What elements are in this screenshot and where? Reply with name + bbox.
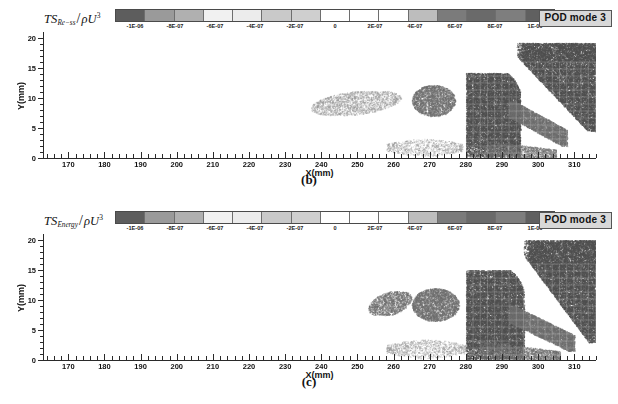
x-tick-minor [184,356,185,360]
x-tick-major [68,354,69,360]
x-tick-major [177,354,178,360]
x-tick-minor [126,356,127,360]
x-tick-minor [329,356,330,360]
colorbar-segment [175,212,204,223]
x-tick-label: 270 [423,362,436,371]
x-tick-minor [83,356,84,360]
x-tick-minor [76,356,77,360]
x-tick-minor [524,154,525,158]
quantity-exponent-c: 3 [99,213,103,222]
colorbar-row-c: TSEnergy/ρU3 -1E-06-8E-07-6E-07-4E-07-2E… [0,208,618,234]
x-tick-major [141,152,142,158]
x-tick-minor [480,154,481,158]
x-tick-major [466,354,467,360]
x-tick-minor [112,356,113,360]
colorbar-tick-label: -2E-07 [287,225,304,231]
colorbar-tick-label: 0 [333,23,336,29]
x-tick-minor [437,154,438,158]
x-tick-minor [90,154,91,158]
y-tick-minor [40,50,44,51]
colorbar-b [115,9,555,22]
x-tick-label: 200 [170,160,183,169]
x-tick-minor [47,356,48,360]
colorbar-tick-label: 2E-07 [368,23,383,29]
x-tick-minor [423,154,424,158]
x-tick-minor [97,356,98,360]
y-tick-minor [40,354,44,355]
colorbar-segment [321,212,350,223]
colorbar-segment [116,212,145,223]
x-tick-minor [170,154,171,158]
x-tick-minor [292,356,293,360]
pod-mode-badge-c: POD mode 3 [539,212,612,229]
x-tick-minor [329,154,330,158]
x-tick-minor [516,356,517,360]
quantity-denominator-b: ρU [81,12,96,26]
y-tick-major [38,360,44,361]
x-tick-minor [415,154,416,158]
y-axis-title-b: Y(mm) [16,81,26,109]
y-tick-minor [40,252,44,253]
y-tick-label: 10 [28,296,36,305]
x-tick-minor [343,356,344,360]
colorbar-segment [292,212,321,223]
x-tick-major [574,152,575,158]
x-tick-minor [148,356,149,360]
x-tick-minor [256,154,257,158]
x-axis-line-c [43,360,596,361]
x-tick-major [502,152,503,158]
colorbar-segment [116,10,145,21]
colorbar-segment [204,212,233,223]
x-tick-label: 260 [387,362,400,371]
colorbar-segment [292,10,321,21]
x-tick-label: 210 [207,362,220,371]
x-tick-major [502,354,503,360]
y-tick-minor [40,44,44,45]
x-tick-minor [191,356,192,360]
x-tick-major [177,152,178,158]
y-tick-minor [40,122,44,123]
x-tick-minor [545,154,546,158]
y-tick-minor [40,104,44,105]
y-tick-minor [40,110,44,111]
x-tick-major [285,152,286,158]
x-tick-major [466,152,467,158]
x-tick-label: 230 [279,362,292,371]
x-tick-minor [263,356,264,360]
scatter-canvas-c [43,234,596,361]
y-tick-minor [40,86,44,87]
x-tick-major [430,152,431,158]
x-tick-minor [596,356,597,360]
pod-mode-badge-b: POD mode 3 [539,10,612,27]
colorbar-segment [233,212,262,223]
x-tick-minor [83,154,84,158]
colorbar-gradient-b [115,9,555,22]
x-tick-minor [372,154,373,158]
x-tick-major [249,152,250,158]
y-tick-major [38,98,44,99]
x-tick-minor [545,356,546,360]
colorbar-segment [175,10,204,21]
x-tick-minor [531,356,532,360]
x-tick-label: 300 [532,160,545,169]
x-tick-minor [206,154,207,158]
y-tick-label: 5 [32,124,36,133]
colorbar-segment [262,10,291,21]
x-tick-minor [76,154,77,158]
y-tick-minor [40,140,44,141]
quantity-prefix-c: TS [44,214,57,228]
x-tick-label: 180 [98,362,111,371]
y-tick-minor [40,264,44,265]
y-tick-minor [40,282,44,283]
x-tick-major [213,354,214,360]
x-tick-label: 310 [568,362,581,371]
y-axis-title-c: Y(mm) [16,283,26,311]
x-tick-minor [61,154,62,158]
x-tick-minor [278,154,279,158]
x-tick-minor [263,154,264,158]
x-tick-label: 170 [62,160,75,169]
colorbar-tick-label: 6E-07 [448,23,463,29]
x-tick-minor [408,356,409,360]
y-tick-label: 5 [32,326,36,335]
x-tick-minor [488,154,489,158]
